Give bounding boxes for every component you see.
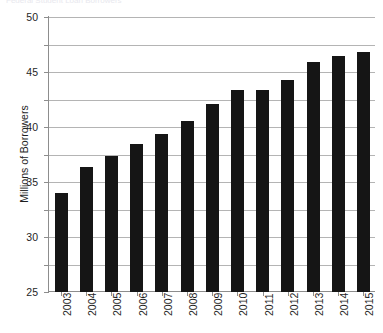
x-tick-label: 2006	[137, 304, 149, 316]
y-tick-mark: 0	[44, 292, 49, 293]
x-tick-label: 2003	[61, 304, 73, 316]
bar	[130, 144, 143, 293]
y-tick-label: 30	[26, 231, 38, 243]
bar	[181, 121, 194, 292]
bar	[281, 80, 294, 292]
x-tick-label: 2010	[237, 304, 249, 316]
x-tick-label: 2005	[111, 304, 123, 316]
x-tick-label: 2015	[363, 304, 375, 316]
bar	[357, 52, 370, 292]
x-tick-label: 2007	[162, 304, 174, 316]
x-tick-label: 2013	[313, 304, 325, 316]
bar	[55, 193, 68, 292]
y-tick-label: 35	[26, 176, 38, 188]
y-tick-label: 25	[26, 286, 38, 298]
x-tick-label: 2004	[86, 304, 98, 316]
bar	[80, 167, 93, 292]
x-tick-label: 2012	[288, 304, 300, 316]
x-tick-label: 2009	[212, 304, 224, 316]
bar	[155, 134, 168, 292]
plot-area: 05101520253035404550 2003200420052006200…	[48, 17, 375, 292]
bar	[206, 104, 219, 292]
y-axis-title: Millions of Borrowers	[18, 64, 30, 244]
bar	[332, 56, 345, 292]
x-tick-label: 2014	[338, 304, 350, 316]
y-tick-label: 50	[26, 11, 38, 23]
x-tick-label: 2008	[187, 304, 199, 316]
y-tick-label: 40	[26, 121, 38, 133]
bar-series	[48, 17, 375, 292]
bar	[307, 62, 320, 292]
y-tick-label: 45	[26, 66, 38, 78]
bar	[256, 90, 269, 292]
bar-chart-figure: Federal Student Loan Borrowers Millions …	[0, 0, 383, 333]
clipped-header-text: Federal Student Loan Borrowers	[6, 0, 346, 5]
bar	[231, 90, 244, 292]
x-tick-label: 2011	[263, 304, 275, 316]
bar	[105, 156, 118, 292]
